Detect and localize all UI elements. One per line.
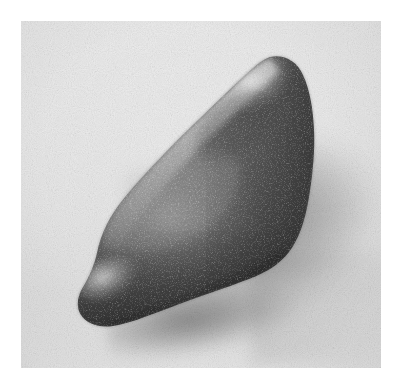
stone-artifact-silhouette [21, 21, 381, 368]
stone-artifact [21, 21, 381, 368]
page-root [0, 0, 398, 383]
photograph [21, 21, 381, 368]
